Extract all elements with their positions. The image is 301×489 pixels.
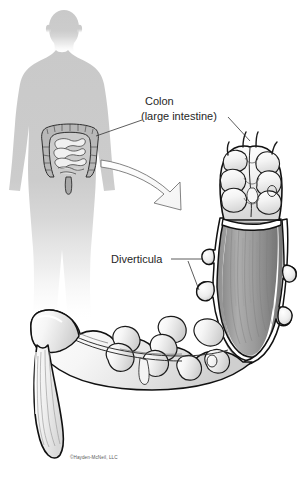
label-diverticula: Diverticula — [111, 253, 163, 265]
colon-diverticula-illustration: Colon (large intestine) Diverticula ©Hay… — [0, 0, 301, 489]
label-colon-line1: Colon — [145, 95, 174, 107]
label-colon-line2: (large intestine) — [141, 110, 217, 122]
copyright-credit: ©Hayden-McNeil, LLC — [70, 454, 118, 460]
